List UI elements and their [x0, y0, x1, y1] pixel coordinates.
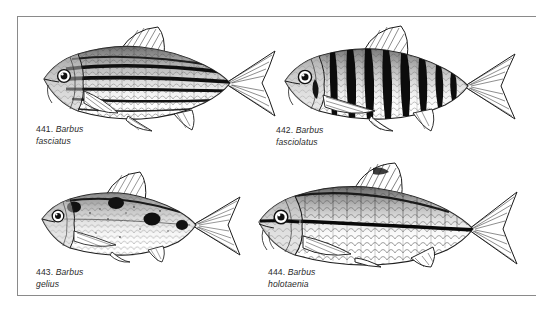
caption-443: 443. Barbus gelius — [36, 267, 83, 290]
fish-443-drawing — [30, 167, 245, 262]
fish-443-caudal-fin — [193, 197, 240, 255]
caption-441-species: fasciatus — [36, 136, 83, 148]
caption-443-number: 443. — [36, 267, 53, 277]
fish-442-head — [285, 56, 324, 111]
illustration-plate: 441. Barbus fasciatus — [17, 16, 536, 296]
caption-441-genus: Barbus — [56, 124, 84, 134]
caption-444-species: holotaenia — [268, 279, 315, 291]
caption-443-genus: Barbus — [56, 267, 84, 277]
caption-442-species: fasciolatus — [276, 137, 323, 149]
caption-444-number: 444. — [268, 267, 285, 277]
caption-441-number: 441. — [36, 124, 53, 134]
fish-444-head — [259, 196, 302, 255]
fish-441-drawing — [26, 21, 281, 131]
caption-442-number: 442. — [276, 125, 293, 135]
fish-444-caudal-fin — [469, 192, 517, 264]
caption-444-genus: Barbus — [288, 267, 316, 277]
fish-442-caudal-fin — [465, 54, 515, 119]
fish-441-head — [44, 54, 83, 111]
figure-441 — [26, 21, 281, 131]
fish-444-drawing — [243, 162, 521, 267]
figure-444 — [243, 162, 521, 267]
figure-443 — [30, 167, 245, 262]
caption-442-genus: Barbus — [296, 125, 324, 135]
caption-444: 444. Barbus holotaenia — [268, 267, 315, 290]
caption-442: 442. Barbus fasciolatus — [276, 125, 323, 148]
figure-442 — [271, 21, 521, 131]
caption-441: 441. Barbus fasciatus — [36, 124, 83, 147]
fish-441-caudal-fin — [226, 51, 275, 116]
fish-442-drawing — [271, 21, 521, 131]
fish-443-head — [42, 199, 75, 248]
fish-442-anal-fin — [413, 109, 434, 131]
fish-441-anal-fin — [174, 110, 194, 130]
caption-443-species: gelius — [36, 279, 83, 291]
